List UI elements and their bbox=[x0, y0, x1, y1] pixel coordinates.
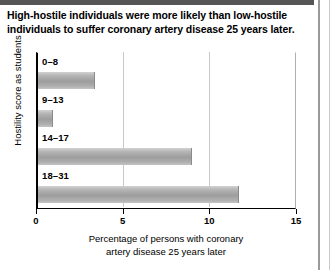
x-tick-label: 10 bbox=[204, 215, 215, 226]
x-tick-mark bbox=[36, 209, 37, 214]
bar bbox=[38, 110, 53, 127]
x-axis-label: Percentage of persons with coronary arte… bbox=[36, 233, 296, 258]
x-tick-label: 5 bbox=[120, 215, 125, 226]
category-label: 18–31 bbox=[42, 170, 69, 181]
bars-group bbox=[38, 52, 296, 209]
bar bbox=[38, 186, 239, 203]
x-tick-mark bbox=[209, 209, 210, 214]
chart-title-line-1: High-hostile individuals were more likel… bbox=[7, 9, 287, 21]
x-axis-label-line-2: artery disease 25 years later bbox=[106, 246, 226, 257]
x-tick-mark bbox=[296, 209, 297, 214]
y-axis-label: Hostility score as students bbox=[12, 26, 23, 156]
x-tick-mark bbox=[123, 209, 124, 214]
bar bbox=[38, 148, 192, 165]
x-axis-label-line-1: Percentage of persons with coronary bbox=[89, 233, 244, 244]
category-label: 0–8 bbox=[42, 56, 58, 67]
category-label: 14–17 bbox=[42, 132, 69, 143]
top-edge-band bbox=[0, 0, 314, 5]
chart-title: High-hostile individuals were more likel… bbox=[7, 9, 307, 36]
chart-figure: High-hostile individuals were more likel… bbox=[0, 0, 330, 270]
x-tick-label: 0 bbox=[33, 215, 38, 226]
page-right-rule bbox=[318, 0, 320, 270]
bar bbox=[38, 72, 95, 89]
x-tick-label: 15 bbox=[291, 215, 302, 226]
category-label: 9–13 bbox=[42, 94, 64, 105]
chart-title-line-2: individuals to suffer coronary artery di… bbox=[7, 23, 294, 35]
